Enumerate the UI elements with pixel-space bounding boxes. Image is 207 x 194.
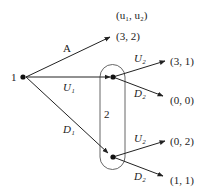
action-d2-top: D₂: [133, 87, 146, 99]
node-player1: [20, 74, 25, 79]
action-u2-bottom: U₂: [134, 132, 146, 144]
payoff-a: (3, 2): [116, 30, 140, 43]
game-tree: (u₁, u₂) (3, 2) 1 2 A U₁ D₁ U₂ D₂ U₂ D₂ …: [0, 0, 207, 194]
player2-label: 2: [104, 108, 110, 120]
action-a: A: [63, 42, 71, 54]
action-u2-top: U₂: [134, 52, 146, 64]
payoff-d1-u2: (0, 2): [170, 135, 194, 148]
payoff-u1-d2: (0, 0): [170, 94, 194, 107]
action-d2-bottom: D₂: [133, 170, 146, 182]
player1-label: 1: [11, 71, 17, 83]
payoff-header: (u₁, u₂): [116, 9, 148, 22]
action-u1: U₁: [63, 81, 75, 93]
action-d1: D₁: [62, 123, 75, 135]
payoff-u1-u2: (3, 1): [170, 55, 194, 68]
node-player2-bottom: [110, 154, 115, 159]
payoff-d1-d2: (1, 1): [170, 174, 194, 187]
node-player2-top: [110, 74, 115, 79]
